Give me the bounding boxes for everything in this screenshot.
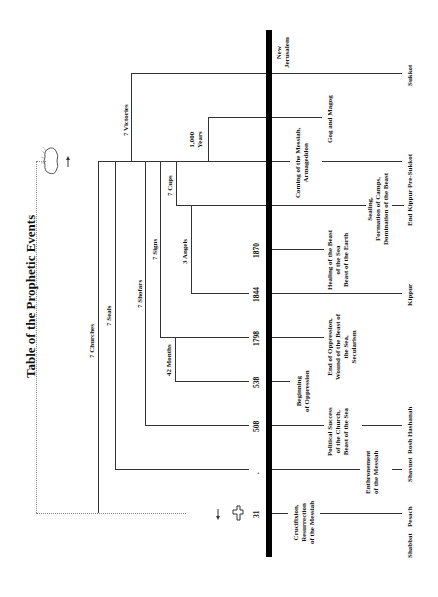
- coming-line-2: Armageddon: [302, 128, 310, 198]
- beginning-line-1: Beginning: [295, 370, 303, 412]
- crucifixion-line-1: Crucifixion,: [292, 501, 300, 544]
- shavuot-line: [392, 469, 402, 470]
- victories-vertical: [131, 73, 132, 161]
- new-jerusalem-line-1: New: [275, 37, 283, 68]
- political-line-3: Beast of the Sea: [342, 407, 350, 456]
- year-unlabeled: .: [253, 472, 261, 474]
- label-political-success: Political Success of the Church, Beast o…: [326, 407, 350, 456]
- label-crucifixion: Crucifixion, Resurrection of the Messiah: [292, 501, 316, 544]
- political-line-a: [272, 425, 324, 426]
- gog-magog-line: [272, 117, 322, 118]
- healing-line-1: Healing of the Beast: [326, 230, 334, 290]
- new-jerusalem-line-2: Jerusalem: [283, 37, 291, 68]
- label-7-cups: 7 Cups: [166, 175, 174, 196]
- coming-line-1: Coming of the Messiah,: [294, 128, 302, 198]
- year-1844: 1844: [253, 287, 261, 302]
- enthronement-line-2: of the Messiah: [372, 451, 380, 494]
- end-oppression-line-2: Wound of the Beast of: [334, 314, 342, 380]
- enthronement-line-1: Enthronement: [364, 451, 372, 494]
- feast-shabbat: Shabbat: [406, 533, 414, 558]
- end-kippur-line: [392, 205, 404, 206]
- sealing-line-2: Formation of Camps,: [374, 173, 382, 245]
- year-31: 31: [253, 511, 261, 519]
- label-1000-years: 1,000 Years: [188, 131, 204, 148]
- crucifixion-line-2: Resurrection: [300, 501, 308, 544]
- label-7-shofars: 7 Shofars: [136, 280, 144, 308]
- prophetic-events-diagram: Table of the Prophetic Events: [0, 0, 438, 597]
- enthronement-line: [272, 469, 360, 470]
- beginning-line: [272, 381, 290, 382]
- angels-vertical: [191, 205, 192, 293]
- label-7-churches: 7 Churches: [88, 324, 96, 358]
- year-538: 538: [253, 377, 261, 388]
- millennium-line-1: 1,000: [188, 131, 196, 148]
- label-3-angels: 3 Angels: [181, 239, 189, 264]
- crucifixion-line-b: [320, 513, 402, 514]
- shofars-vertical: [145, 161, 146, 425]
- sealing-line-3: Domination of the Beast: [382, 173, 390, 245]
- feast-sukkot: Sukkot: [406, 65, 414, 86]
- label-sealing: Sealing, Formation of Camps, Domination …: [366, 173, 390, 245]
- victories-top-line: [131, 73, 266, 74]
- end-oppression-line-1: End of Oppression,: [326, 314, 334, 380]
- label-beginning-oppression: Beginning of Oppression: [295, 370, 311, 412]
- churches-vertical: [98, 161, 99, 513]
- main-connector-line: [98, 161, 266, 162]
- millennium-vertical: [208, 117, 209, 161]
- feast-pesach: Pesach: [406, 506, 414, 527]
- months-vertical: [175, 337, 176, 381]
- year-1798: 1798: [253, 331, 261, 346]
- label-new-jerusalem: New Jerusalem: [275, 37, 291, 68]
- millennium-top-line: [208, 117, 266, 118]
- label-42-months: 42 Months: [165, 344, 173, 376]
- year-508: 508: [253, 421, 261, 432]
- healing-line-3: Beast of the Earth: [342, 230, 350, 290]
- arrow-up-icon: [64, 155, 72, 169]
- sealing-line-1: Sealing,: [366, 173, 374, 245]
- coming-line-b: [322, 161, 402, 162]
- seals-vertical: [115, 161, 116, 469]
- healing-line: [272, 249, 324, 250]
- year-1870: 1870: [253, 243, 261, 258]
- crucifixion-line-a: [272, 513, 288, 514]
- healing-line-2: of the Sea: [334, 230, 342, 290]
- end-oppression-line-4: Secularism: [350, 314, 358, 380]
- beginning-line-2: of Oppression: [303, 370, 311, 412]
- feast-pre-sukkot: Pre-Sukkot: [406, 154, 414, 188]
- feast-shavuot: Shavuot: [406, 457, 414, 482]
- political-line-2: of the Church,: [334, 407, 342, 456]
- arrow-down-icon: [214, 507, 222, 521]
- cups-vertical: [176, 161, 177, 205]
- signs-vertical: [160, 161, 161, 337]
- cross-icon: [232, 505, 244, 521]
- label-gog-magog: Gog and Magog: [326, 95, 334, 143]
- shofars-bottom-line: [145, 425, 249, 426]
- cups-bottom-line: [176, 205, 266, 206]
- label-healing: Healing of the Beast of the Sea Beast of…: [326, 230, 350, 290]
- sealing-line: [272, 205, 366, 206]
- sukkot-line: [272, 73, 402, 74]
- political-line-b: [362, 425, 402, 426]
- cloud-icon: [40, 143, 62, 179]
- coming-line-a: [272, 161, 290, 162]
- dotted-vertical: [36, 161, 37, 513]
- label-enthronement: Enthronement of the Messiah: [364, 451, 380, 494]
- end-oppression-line: [272, 337, 324, 338]
- kippur-line: [272, 293, 402, 294]
- label-7-seals: 7 Seals: [105, 306, 113, 326]
- end-oppression-line-3: the Sea,: [342, 314, 350, 380]
- political-line-1: Political Success: [326, 407, 334, 456]
- seals-bottom-line: [115, 469, 249, 470]
- months-bottom-line: [175, 381, 249, 382]
- label-coming-messiah: Coming of the Messiah, Armageddon: [294, 128, 310, 198]
- feast-end-kippur: End Kippur: [406, 190, 414, 226]
- feast-rosh-hashanah: Rosh Hashanah: [406, 407, 414, 454]
- label-end-oppression: End of Oppression, Wound of the Beast of…: [326, 314, 358, 380]
- dotted-bottom: [36, 513, 186, 514]
- label-7-victories: 7 Victories: [122, 104, 130, 136]
- feast-kippur: Kippur: [406, 284, 414, 306]
- millennium-line-2: Years: [196, 131, 204, 148]
- crucifixion-line-3: of the Messiah: [308, 501, 316, 544]
- label-7-signs: 7 Signs: [151, 239, 159, 260]
- signs-bottom-line: [160, 337, 249, 338]
